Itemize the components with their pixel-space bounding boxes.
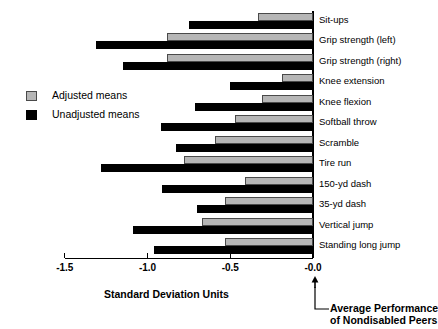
- x-axis-tick: [147, 253, 148, 258]
- bar-unadjusted: [133, 226, 313, 234]
- bar-adjusted: [202, 218, 313, 226]
- black-square-swatch-icon: [26, 110, 37, 120]
- zero-reference-annotation-line1: Average Performance: [330, 302, 438, 315]
- bar-unadjusted: [161, 123, 313, 131]
- category-label: 35-yd dash: [319, 198, 366, 209]
- x-axis-tick-label: -0.5: [210, 262, 250, 273]
- x-axis-title: Standard Deviation Units: [104, 288, 229, 300]
- legend-label-unadjusted-means: Unadjusted means: [52, 108, 140, 120]
- bar-adjusted: [215, 136, 313, 144]
- x-axis-tick: [230, 253, 231, 258]
- x-axis-tick-label: -0.0: [293, 262, 333, 273]
- category-label: Knee flexion: [319, 96, 371, 107]
- x-axis-tick-label: -1.0: [128, 262, 168, 273]
- bar-adjusted: [167, 33, 313, 41]
- legend-label-adjusted-means: Adjusted means: [52, 89, 127, 101]
- bar-adjusted: [235, 115, 313, 123]
- category-label: Sit-ups: [319, 14, 349, 25]
- bar-adjusted: [167, 54, 313, 62]
- bar-adjusted: [262, 95, 313, 103]
- bar-unadjusted: [96, 41, 313, 49]
- bar-adjusted: [225, 197, 313, 205]
- x-axis-tick: [313, 253, 314, 258]
- bar-adjusted: [225, 238, 313, 246]
- category-label: Vertical jump: [319, 219, 373, 230]
- bar-adjusted: [245, 177, 313, 185]
- zero-reference-annotation-line2: of Nondisabled Peers: [330, 314, 437, 327]
- bar-unadjusted: [195, 103, 313, 111]
- x-axis-tick: [64, 253, 65, 258]
- bar-unadjusted: [230, 82, 313, 90]
- bar-adjusted: [282, 74, 313, 82]
- bar-unadjusted: [189, 21, 313, 29]
- category-label: Standing long jump: [319, 239, 400, 250]
- category-label: 150-yd dash: [319, 178, 371, 189]
- category-label: Scramble: [319, 137, 359, 148]
- bar-unadjusted: [162, 185, 313, 193]
- x-axis-baseline: [65, 258, 313, 259]
- category-label: Grip strength (left): [319, 34, 396, 45]
- bar-unadjusted: [154, 246, 313, 254]
- x-axis-tick-label: -1.5: [45, 262, 85, 273]
- bar-unadjusted: [123, 62, 313, 70]
- bar-unadjusted: [101, 164, 313, 172]
- bar-adjusted: [184, 156, 313, 164]
- bar-adjusted: [258, 13, 313, 21]
- category-label: Tire run: [319, 157, 351, 168]
- category-label: Grip strength (right): [319, 55, 401, 66]
- zero-reference-arrow-icon: [310, 276, 332, 310]
- gray-square-swatch-icon: [26, 91, 37, 101]
- bar-unadjusted: [176, 144, 313, 152]
- bar-unadjusted: [197, 205, 313, 213]
- category-label: Knee extension: [319, 75, 385, 86]
- category-label: Softball throw: [319, 116, 377, 127]
